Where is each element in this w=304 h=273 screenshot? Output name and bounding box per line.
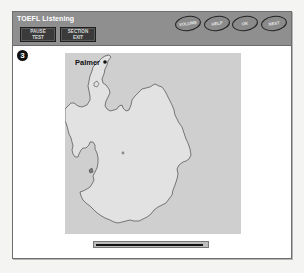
header-bar: TOEFL Listening PAUSE TEST SECTION EXIT …: [13, 12, 291, 46]
next-button[interactable]: NEXT: [260, 14, 288, 32]
volume-button[interactable]: VOLUME: [174, 14, 202, 32]
volume-label: VOLUME: [179, 20, 197, 27]
coast-island: [89, 168, 93, 173]
help-button[interactable]: HELP: [203, 14, 231, 32]
antarctica-map: Palmer: [65, 53, 241, 234]
section-exit-label-line2: EXIT: [73, 35, 83, 41]
app-title: TOEFL Listening: [17, 15, 74, 22]
next-label: NEXT: [268, 20, 280, 27]
pause-test-label-line2: TEST: [32, 35, 44, 41]
ok-button[interactable]: OK: [231, 14, 259, 32]
palmer-label: Palmer: [75, 58, 100, 67]
palmer-station-marker: [103, 60, 107, 64]
audio-progress-fill: [96, 244, 203, 246]
section-exit-button[interactable]: SECTION EXIT: [60, 27, 96, 42]
help-label: HELP: [211, 20, 223, 27]
audio-progress-bar: [93, 241, 209, 248]
antarctica-coastline: [65, 55, 191, 223]
question-number-badge: 3: [17, 50, 28, 61]
pause-test-button[interactable]: PAUSE TEST: [20, 27, 56, 42]
antarctica-map-graphic: [65, 53, 241, 234]
test-window: TOEFL Listening PAUSE TEST SECTION EXIT …: [12, 11, 292, 259]
south-pole-marker: [122, 152, 125, 155]
ok-label: OK: [242, 21, 249, 27]
